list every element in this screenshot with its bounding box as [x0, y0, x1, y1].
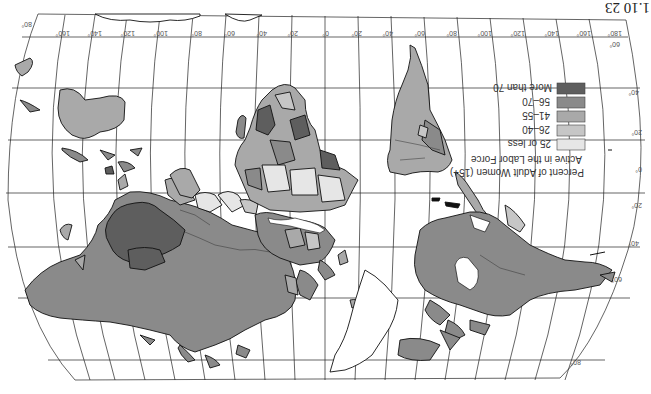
legend-swatch-41-55: [557, 111, 585, 122]
legend-title-line2: Active in the Labor Force: [470, 154, 582, 165]
svg-text:160°: 160°: [55, 30, 70, 37]
svg-text:60°: 60°: [609, 41, 620, 48]
svg-text:80°: 80°: [191, 30, 202, 37]
svg-text:40°: 40°: [256, 30, 267, 37]
legend-label-26-40: 26–40: [522, 124, 550, 135]
svg-text:80°: 80°: [21, 21, 32, 28]
australia-region: [15, 58, 125, 138]
south-america-region: [388, 45, 453, 175]
svg-text:160°: 160°: [576, 30, 591, 37]
legend: More than 70 56–70 41–55 26–40 25 or les…: [450, 82, 585, 178]
legend-title-line1: Percent of Adult Women (15+): [450, 167, 584, 178]
north-america-region: [398, 205, 612, 360]
longitude-labels: 80° 160° 140° 120° 100° 80° 60° 40° 20° …: [21, 21, 622, 48]
svg-text:180°: 180°: [607, 30, 622, 37]
svg-text:20°: 20°: [631, 202, 642, 209]
svg-text:60°: 60°: [414, 30, 425, 37]
svg-text:120°: 120°: [120, 30, 135, 37]
legend-label-25-or-less: 25 or less: [508, 138, 551, 149]
caption-text: 1.10 23: [605, 0, 650, 16]
legend-label-56-70: 56–70: [522, 96, 550, 107]
svg-text:140°: 140°: [87, 30, 102, 37]
world-map: 1.10 23 80° 160° 140°: [0, 0, 651, 394]
greenland: [330, 270, 398, 372]
antarctica: [95, 14, 262, 22]
legend-swatch-26-40: [557, 125, 585, 136]
svg-text:100°: 100°: [477, 30, 492, 37]
svg-text:0°: 0°: [322, 30, 329, 37]
legend-label-more-than-70: More than 70: [493, 82, 552, 93]
svg-text:40°: 40°: [382, 30, 393, 37]
svg-text:60°: 60°: [224, 30, 235, 37]
indonesia-islands: [62, 148, 142, 174]
svg-text:80°: 80°: [446, 30, 457, 37]
svg-text:140°: 140°: [544, 30, 559, 37]
africa-region: [235, 84, 358, 212]
legend-label-41-55: 41–55: [522, 110, 550, 121]
legend-swatch-25-or-less: [557, 139, 585, 150]
svg-text:40°: 40°: [628, 240, 639, 247]
svg-text:40°: 40°: [628, 89, 639, 96]
svg-text:20°: 20°: [631, 129, 642, 136]
legend-swatch-more-than-70: [557, 83, 585, 94]
svg-text:20°: 20°: [287, 30, 298, 37]
svg-text:100°: 100°: [153, 30, 168, 37]
svg-text:80°: 80°: [570, 359, 581, 366]
svg-text:120°: 120°: [510, 30, 525, 37]
figure-caption: 1.10 23: [605, 0, 650, 16]
legend-swatch-56-70: [557, 97, 585, 108]
svg-text:0°: 0°: [635, 166, 642, 173]
svg-text:20°: 20°: [351, 30, 362, 37]
